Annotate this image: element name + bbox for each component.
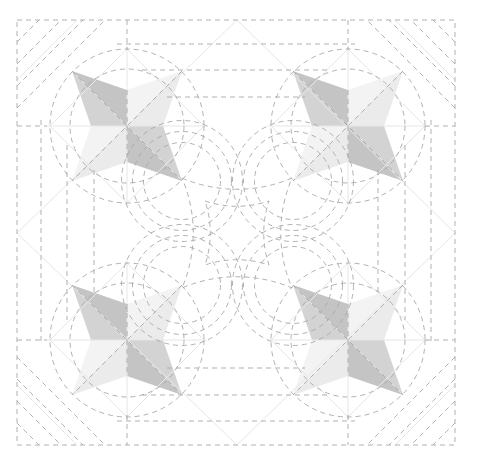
center-cushion-outer [182,178,292,288]
patch-fills [72,71,403,395]
corner-stitch [17,423,39,445]
corner-stitch [17,20,83,86]
diagonal-line [395,385,455,445]
diagonal-line [395,20,455,80]
diagonal-line [17,20,77,80]
center-cushion [205,201,269,265]
corner-stitch [433,423,455,445]
corner-stitch [17,20,39,42]
quilt-pattern-canvas [0,0,477,453]
diagonal-line [17,385,77,445]
corner-stitch [433,20,455,42]
corner-stitch [17,379,83,445]
